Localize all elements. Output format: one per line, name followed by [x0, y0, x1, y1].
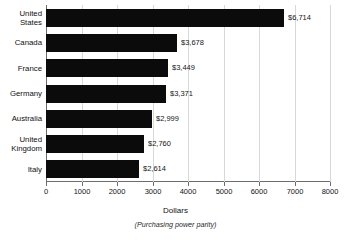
- bar-value-label: $2,614: [143, 165, 166, 173]
- category-label: United States: [0, 9, 42, 27]
- category-label: United Kingdom: [0, 135, 42, 153]
- bar: [46, 9, 284, 27]
- bar: [46, 135, 144, 153]
- axis-tick-label: 4000: [180, 187, 197, 196]
- bar-row: $3,371: [46, 85, 193, 103]
- axis-tick-label: 2000: [109, 187, 126, 196]
- bar-value-label: $3,449: [172, 64, 195, 72]
- axis-tick: [82, 182, 83, 186]
- category-label: France: [0, 64, 42, 73]
- bar: [46, 85, 166, 103]
- gridline: [224, 5, 225, 182]
- bar-row: $2,760: [46, 135, 171, 153]
- axis-tick: [295, 182, 296, 186]
- bar: [46, 160, 139, 178]
- axis-tick: [117, 182, 118, 186]
- axis-tick: [224, 182, 225, 186]
- axis-tick-label: 8000: [322, 187, 339, 196]
- axis-tick-label: 1000: [74, 187, 91, 196]
- axis-tick-label: 6000: [251, 187, 268, 196]
- bar: [46, 59, 168, 77]
- bar-chart: $6,714$3,678$3,449$3,371$2,999$2,760$2,6…: [0, 0, 351, 240]
- bar-row: $2,999: [46, 110, 179, 128]
- axis-tick-label: 7000: [287, 187, 304, 196]
- bar: [46, 34, 177, 52]
- axis-tick: [153, 182, 154, 186]
- bar-value-label: $2,760: [148, 140, 171, 148]
- category-label: Australia: [0, 114, 42, 123]
- category-label: Italy: [0, 165, 42, 174]
- bar: [46, 110, 152, 128]
- axis-tick: [46, 182, 47, 186]
- bar-row: $3,678: [46, 34, 204, 52]
- bar-value-label: $2,999: [156, 115, 179, 123]
- bar-value-label: $6,714: [288, 14, 311, 22]
- bar-value-label: $3,678: [181, 39, 204, 47]
- gridline: [330, 5, 331, 182]
- gridline: [295, 5, 296, 182]
- bar-value-label: $3,371: [170, 90, 193, 98]
- bar-row: $2,614: [46, 160, 166, 178]
- category-label: Germany: [0, 89, 42, 98]
- axis-tick-label: 3000: [145, 187, 162, 196]
- gridline: [259, 5, 260, 182]
- x-axis-title: Dollars: [0, 206, 351, 215]
- x-axis-subtitle: (Purchasing power parity): [0, 220, 351, 229]
- axis-tick-label: 0: [44, 187, 48, 196]
- axis-tick: [259, 182, 260, 186]
- axis-tick: [188, 182, 189, 186]
- axis-tick-label: 5000: [216, 187, 233, 196]
- bar-row: $3,449: [46, 59, 195, 77]
- bar-row: $6,714: [46, 9, 311, 27]
- axis-tick: [330, 182, 331, 186]
- category-label: Canada: [0, 38, 42, 47]
